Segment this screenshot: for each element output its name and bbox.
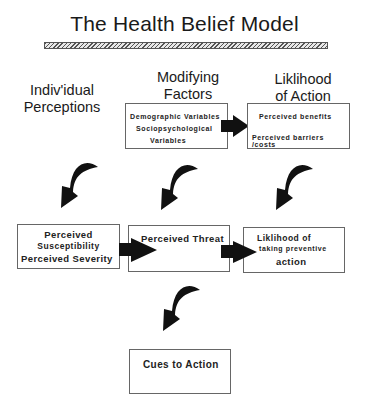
box-text: Perceived barriers /costs — [252, 134, 349, 148]
column-header-line: Modifying — [138, 69, 238, 86]
box-likelihood-action: Perceived benefits Perceived barriers /c… — [247, 103, 350, 149]
column-header-likelihood: Liklihood of Action — [248, 71, 358, 105]
column-header-individual: Indiv'idual Perceptions — [14, 82, 110, 116]
diagram-title: The Health Belief Model — [0, 12, 369, 36]
box-text: action — [276, 256, 306, 267]
box-cues-to-action: Cues to Action — [129, 349, 231, 394]
column-header-line: Factors — [138, 86, 238, 103]
right-arrow-icon — [119, 238, 159, 262]
box-modifying-factors: Demographic Variables Sociopsychological… — [125, 103, 228, 149]
curved-arrow-icon — [58, 160, 103, 210]
column-header-line: Liklihood — [248, 71, 358, 88]
column-header-line: Perceptions — [14, 99, 110, 116]
box-text: Liklihood of — [257, 233, 311, 243]
box-text: Perceived Severity — [21, 253, 113, 264]
column-header-modifying: Modifying Factors — [138, 69, 238, 103]
title-underline-bar — [44, 42, 328, 49]
box-text: Cues to Action — [143, 359, 219, 370]
box-text: taking preventive — [259, 245, 327, 252]
box-perceptions: Perceived Susceptibility Perceived Sever… — [17, 224, 120, 269]
box-text: Variables — [150, 137, 186, 144]
right-arrow-icon — [221, 241, 261, 265]
curved-arrow-icon — [273, 162, 318, 212]
curved-arrow-icon — [160, 283, 205, 333]
box-text: Susceptibility — [18, 241, 119, 251]
column-header-line: Indiv'idual — [14, 82, 110, 99]
box-text: Sociopsychological — [136, 125, 213, 132]
box-text: Demographic Variables — [130, 113, 220, 120]
box-text: Perceived benefits — [259, 113, 332, 120]
box-text: Perceived — [18, 229, 119, 240]
curved-arrow-icon — [158, 162, 203, 212]
